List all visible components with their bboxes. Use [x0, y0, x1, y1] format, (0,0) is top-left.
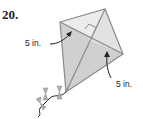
tail-bows — [36, 86, 62, 110]
label-left-5in: 5 in. — [25, 38, 41, 48]
label-right-5in: 5 in. — [116, 79, 132, 89]
kite-figure — [0, 0, 143, 119]
